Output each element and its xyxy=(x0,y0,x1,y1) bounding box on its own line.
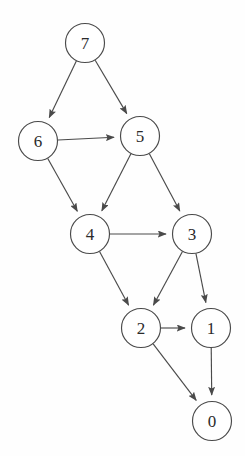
node-label-7: 7 xyxy=(81,34,90,53)
node-label-5: 5 xyxy=(136,127,145,146)
edge-5-to-4 xyxy=(102,154,131,211)
node-label-2: 2 xyxy=(137,319,146,338)
graph-diagram: 76543210 xyxy=(0,0,245,456)
node-2[interactable]: 2 xyxy=(122,309,161,348)
node-6[interactable]: 6 xyxy=(19,122,58,161)
node-label-0: 0 xyxy=(208,412,217,431)
edge-7-to-5 xyxy=(95,60,127,113)
edge-6-to-4 xyxy=(48,158,78,211)
node-4[interactable]: 4 xyxy=(71,215,110,254)
edge-6-to-5 xyxy=(58,137,114,140)
edge-5-to-3 xyxy=(149,154,179,211)
node-label-6: 6 xyxy=(34,132,43,151)
edge-4-to-2 xyxy=(100,252,129,306)
node-label-1: 1 xyxy=(207,319,216,338)
edge-1-to-0 xyxy=(211,348,212,395)
node-5[interactable]: 5 xyxy=(121,117,160,156)
node-label-4: 4 xyxy=(86,225,95,244)
nodes-layer: 76543210 xyxy=(19,24,232,441)
node-1[interactable]: 1 xyxy=(192,309,231,348)
edge-7-to-6 xyxy=(49,61,76,118)
node-7[interactable]: 7 xyxy=(66,24,105,63)
node-label-3: 3 xyxy=(188,225,197,244)
edge-2-to-0 xyxy=(153,344,196,400)
edge-3-to-2 xyxy=(153,252,182,306)
node-3[interactable]: 3 xyxy=(173,215,212,254)
node-0[interactable]: 0 xyxy=(193,402,232,441)
edge-3-to-1 xyxy=(196,254,206,303)
